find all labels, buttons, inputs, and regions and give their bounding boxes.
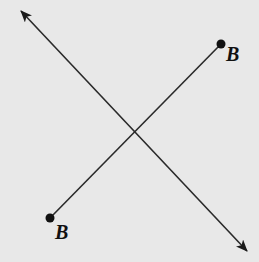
- label-bottom-b: B: [54, 221, 68, 243]
- line-with-arrows: [21, 11, 247, 251]
- label-top-b: B: [225, 43, 239, 65]
- endpoint-bottom-dot: [46, 214, 55, 223]
- geometry-figure: B B: [0, 0, 259, 262]
- diagram-canvas: B B: [0, 0, 259, 262]
- endpoint-top-dot: [217, 40, 226, 49]
